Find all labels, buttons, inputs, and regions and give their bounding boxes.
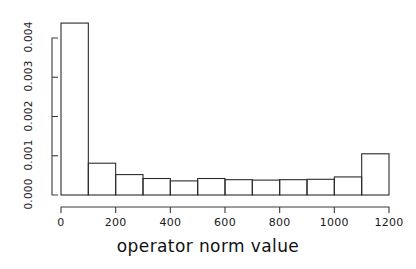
x-tick-label: 0 bbox=[31, 216, 91, 229]
x-tick-label: 1200 bbox=[359, 216, 416, 229]
histogram-bar bbox=[362, 154, 389, 195]
bars-group bbox=[61, 23, 389, 195]
histogram-bar bbox=[280, 180, 307, 195]
y-tick-label: 0.004 bbox=[22, 17, 34, 57]
histogram-bar bbox=[143, 179, 170, 195]
histogram-bar bbox=[198, 179, 225, 195]
y-axis bbox=[52, 38, 58, 195]
x-tick-label: 800 bbox=[250, 216, 310, 229]
histogram-bar bbox=[170, 181, 197, 195]
x-axis-title: operator norm value bbox=[0, 236, 416, 256]
histogram-bar bbox=[61, 23, 88, 195]
x-axis bbox=[61, 207, 389, 213]
y-tick-label: 0.000 bbox=[22, 174, 34, 214]
x-tick-label: 400 bbox=[140, 216, 200, 229]
histogram-bar bbox=[88, 163, 115, 195]
y-tick-label: 0.003 bbox=[22, 56, 34, 96]
histogram-bar bbox=[225, 180, 252, 195]
histogram-bar bbox=[252, 180, 279, 195]
y-tick-label: 0.002 bbox=[22, 96, 34, 136]
histogram-chart: 0.0000.0010.0020.0030.004 02004006008001… bbox=[0, 0, 416, 269]
histogram-bar bbox=[307, 179, 334, 195]
x-tick-label: 200 bbox=[86, 216, 146, 229]
histogram-bar bbox=[334, 177, 361, 195]
x-tick-label: 1000 bbox=[304, 216, 364, 229]
x-tick-label: 600 bbox=[195, 216, 255, 229]
histogram-bar bbox=[116, 175, 143, 195]
y-tick-label: 0.001 bbox=[22, 135, 34, 175]
